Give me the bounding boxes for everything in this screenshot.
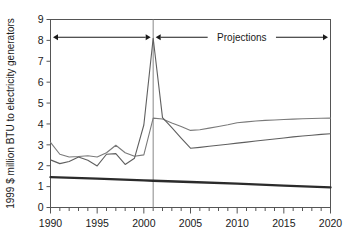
series-thick-dark xyxy=(51,177,331,187)
line-chart: 01234567891990199520002005201020152020Pr… xyxy=(0,0,346,242)
y-axis-tick-label: 4 xyxy=(38,118,44,130)
x-axis-tick-label: 2020 xyxy=(319,217,343,229)
arrow-head-icon xyxy=(146,34,151,40)
y-axis-tick-label: 2 xyxy=(38,160,44,172)
arrow-head-icon xyxy=(156,34,161,40)
x-axis-tick-label: 1990 xyxy=(39,217,63,229)
annotation-label: Projections xyxy=(217,32,266,43)
y-axis-tick-label: 7 xyxy=(38,55,44,67)
x-axis-tick-label: 2010 xyxy=(225,217,249,229)
x-axis-tick-label: 1995 xyxy=(85,217,109,229)
arrow-head-icon xyxy=(323,34,328,40)
y-axis-tick-label: 5 xyxy=(38,97,44,109)
y-axis-tick-label: 9 xyxy=(38,13,44,25)
y-axis-tick-label: 0 xyxy=(38,201,44,213)
x-axis-tick-label: 2000 xyxy=(132,217,156,229)
x-axis-tick-label: 2005 xyxy=(179,217,203,229)
series-peak-gray xyxy=(51,38,331,166)
y-axis-tick-label: 3 xyxy=(38,139,44,151)
y-axis-tick-label: 6 xyxy=(38,76,44,88)
y-axis-title: 1999 $ million BTU to electricity genera… xyxy=(5,18,16,209)
x-axis-tick-label: 2015 xyxy=(272,217,296,229)
chart-container: 01234567891990199520002005201020152020Pr… xyxy=(0,0,346,242)
y-axis-tick-label: 8 xyxy=(38,34,44,46)
history-span-arrow xyxy=(53,34,151,40)
arrow-head-icon xyxy=(53,34,58,40)
y-axis-tick-label: 1 xyxy=(38,180,44,192)
projections-span-arrow: Projections xyxy=(156,32,328,43)
